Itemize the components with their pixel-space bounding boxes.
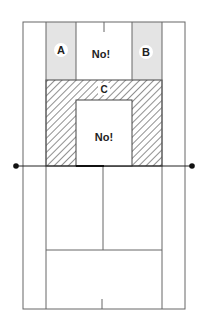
zone-a-label: A: [57, 44, 65, 56]
tennis-court-diagram: A B No! C No!: [0, 0, 207, 321]
no-label-mid: No!: [95, 131, 113, 143]
zone-c-label: C: [100, 84, 107, 95]
net-post-right: [189, 163, 195, 169]
no-label-top: No!: [92, 48, 110, 60]
net-post-left: [13, 163, 19, 169]
zone-b-label: B: [142, 46, 150, 58]
